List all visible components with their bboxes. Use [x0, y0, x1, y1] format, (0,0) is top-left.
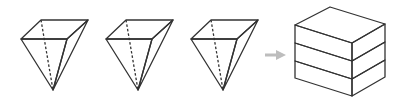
pyramid-1: [21, 20, 88, 90]
arrow-right-icon: [265, 50, 286, 60]
pyramid-2: [106, 20, 173, 90]
pyramid-3: [191, 20, 258, 90]
diagram-canvas: [0, 0, 404, 103]
layered-block: [295, 7, 385, 96]
